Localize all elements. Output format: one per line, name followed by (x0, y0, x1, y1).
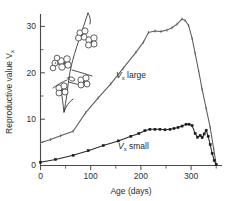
chart-svg: 0 10 20 30 0 100 200 300 Age (days) (0, 0, 226, 201)
x-axis-tick-labels: 0 100 200 300 (38, 171, 198, 181)
y-axis-ticks (41, 26, 46, 165)
vx-small-text: small (127, 141, 149, 151)
data-point (130, 135, 132, 137)
data-point (205, 129, 207, 131)
y-tick-label-30: 30 (27, 21, 37, 31)
data-point (154, 128, 156, 130)
data-point (201, 137, 203, 139)
plant-flower-6 (56, 83, 68, 96)
x-axis-title: Age (days) (110, 186, 151, 196)
data-point (211, 152, 213, 154)
svg-text:Reproductive value Vx: Reproductive value Vx (4, 50, 15, 134)
figure-panel: 0 10 20 30 0 100 200 300 Age (days) (0, 0, 226, 201)
data-point (39, 161, 41, 163)
plant-flower-5 (78, 75, 90, 88)
data-point (185, 123, 187, 125)
data-point (55, 158, 57, 160)
vx-small-annotation: Vx small (118, 141, 149, 152)
data-point (87, 150, 89, 152)
data-point (144, 130, 146, 132)
plant-tip (88, 13, 90, 24)
vx-large-text: large (125, 70, 147, 80)
data-point (191, 125, 193, 127)
y-tick-label-20: 20 (27, 68, 37, 78)
plant-line-drawing (50, 13, 97, 112)
data-point (207, 135, 209, 137)
x-tick-label-0: 0 (38, 171, 43, 181)
data-point (177, 126, 179, 128)
y-axis-title-main: Reproductive value V (4, 53, 14, 134)
data-point (72, 154, 74, 156)
data-point (102, 145, 104, 147)
x-tick-label-200: 200 (134, 171, 148, 181)
data-point (215, 164, 217, 166)
data-point (197, 136, 199, 138)
x-tick-label-300: 300 (184, 171, 198, 181)
data-point (138, 132, 140, 134)
plant-branch-right-mid (72, 70, 92, 76)
data-point (209, 144, 211, 146)
data-point (159, 128, 161, 130)
x-tick-label-100: 100 (84, 171, 98, 181)
y-tick-label-10: 10 (27, 114, 37, 124)
data-point (173, 127, 175, 129)
plant-flower-4 (50, 55, 60, 71)
vx-large-annotation: Vx large (116, 70, 146, 81)
y-axis-title: Reproductive value Vx (4, 50, 15, 134)
data-point (188, 123, 190, 125)
y-axis-tick-labels: 0 10 20 30 (27, 21, 37, 170)
data-point (199, 134, 201, 136)
data-point (194, 132, 196, 134)
data-point (213, 159, 215, 161)
y-axis-title-subscript: x (9, 50, 15, 53)
data-point (169, 128, 171, 130)
x-axis-ticks (41, 166, 217, 171)
data-point (203, 133, 205, 135)
data-point (164, 129, 166, 131)
y-tick-label-0: 0 (31, 160, 36, 170)
data-point (181, 125, 183, 127)
data-point (149, 128, 151, 130)
